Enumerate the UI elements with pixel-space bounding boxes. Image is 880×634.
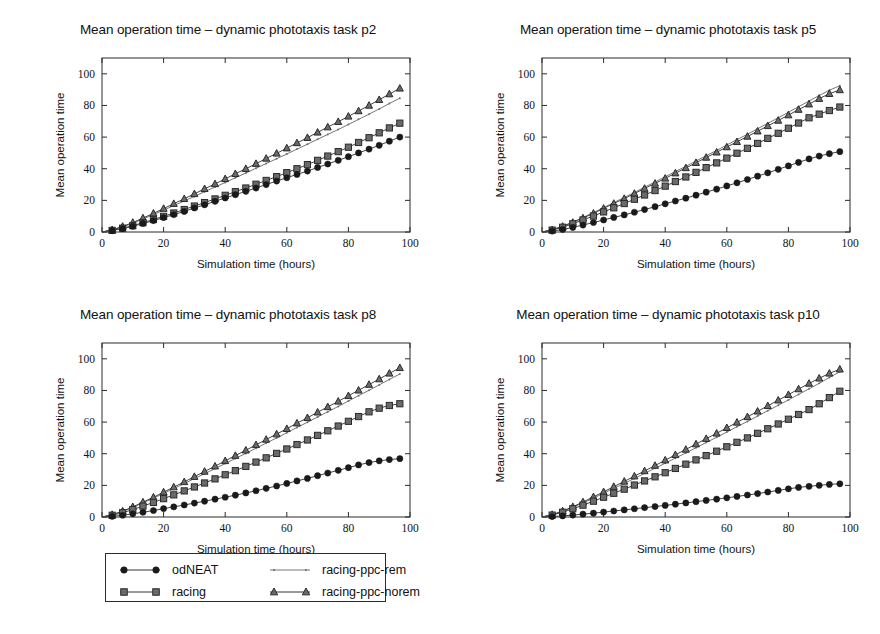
data-point-marker <box>150 499 156 505</box>
data-point-marker <box>325 428 331 434</box>
data-point-marker <box>232 192 238 198</box>
data-point-marker <box>601 217 607 223</box>
data-point-marker <box>170 200 177 207</box>
data-point-marker <box>337 405 339 407</box>
legend-label-odNEAT: odNEAT <box>172 563 264 577</box>
data-point-marker <box>315 157 321 163</box>
y-tick-label: 20 <box>524 194 536 206</box>
y-tick-label: 80 <box>524 384 536 396</box>
data-point-marker <box>785 125 791 131</box>
y-tick-label: 60 <box>524 131 536 143</box>
data-point-marker <box>570 224 576 230</box>
legend-sample-racing-ppc-norem <box>264 584 322 600</box>
data-point-marker <box>263 181 269 187</box>
data-point-marker <box>662 183 668 189</box>
data-point-marker <box>378 108 380 110</box>
data-point-marker <box>232 492 238 498</box>
data-point-marker <box>366 146 372 152</box>
data-point-marker <box>560 513 566 519</box>
data-point-marker <box>286 432 288 434</box>
data-point-marker <box>764 402 771 409</box>
x-tick-label: 20 <box>158 237 170 249</box>
data-point-marker <box>366 381 373 388</box>
data-point-marker <box>283 144 290 151</box>
y-tick-label: 80 <box>84 99 96 111</box>
data-point-marker <box>170 483 177 490</box>
data-point-marker <box>621 486 627 492</box>
axes: 020406080100020406080100 <box>78 343 419 534</box>
data-point-marker <box>294 166 300 172</box>
data-point-marker <box>358 118 360 120</box>
data-point-marker <box>284 175 290 181</box>
data-point-marker <box>368 389 370 391</box>
data-point-marker <box>693 192 699 198</box>
data-point-marker <box>335 157 341 163</box>
x-tick-label: 40 <box>659 522 671 534</box>
data-point-marker <box>703 435 710 442</box>
data-point-marker <box>621 200 627 206</box>
data-point-marker <box>160 205 167 212</box>
data-point-marker <box>397 456 403 462</box>
data-point-marker <box>335 149 341 155</box>
data-point-marker <box>785 163 791 169</box>
data-point-marker <box>765 170 771 176</box>
data-point-marker <box>273 150 280 157</box>
data-point-marker <box>386 456 392 462</box>
legend-marker-triangle <box>270 588 277 595</box>
data-point-marker <box>120 226 126 232</box>
data-point-marker <box>245 172 247 174</box>
data-point-marker <box>399 373 401 375</box>
data-point-marker <box>798 393 800 395</box>
x-tick-label: 60 <box>281 522 293 534</box>
data-point-marker <box>222 195 228 201</box>
data-point-marker <box>314 408 321 415</box>
data-point-marker <box>652 462 659 469</box>
data-point-marker <box>181 478 188 485</box>
data-point-marker <box>222 472 228 478</box>
series-line <box>102 98 400 232</box>
data-point-marker <box>345 144 351 150</box>
data-point-marker <box>201 480 207 486</box>
data-point-marker <box>397 401 403 407</box>
data-point-marker <box>785 416 791 422</box>
data-point-marker <box>315 432 321 438</box>
data-point-marker <box>837 149 843 155</box>
data-point-marker <box>294 171 300 177</box>
data-point-marker <box>746 420 748 422</box>
data-point-marker <box>327 411 329 413</box>
data-point-marker <box>714 160 720 166</box>
data-point-marker <box>795 120 801 126</box>
data-point-marker <box>714 496 720 502</box>
legend-marker-square <box>153 589 160 596</box>
data-point-marker <box>590 219 596 225</box>
data-point-marker <box>368 113 370 115</box>
data-point-marker <box>324 123 331 130</box>
y-tick-label: 60 <box>84 416 96 428</box>
x-axis-label: Simulation time (hours) <box>197 258 315 270</box>
data-point-marker <box>366 135 372 141</box>
y-axis-label: Mean operation time <box>54 378 66 483</box>
data-point-marker <box>683 500 689 506</box>
x-tick-label: 60 <box>721 522 733 534</box>
data-point-marker <box>785 391 792 398</box>
data-point-marker <box>713 430 720 437</box>
data-point-marker <box>806 406 812 412</box>
data-point-marker <box>837 481 843 487</box>
data-point-marker <box>304 134 311 141</box>
data-point-marker <box>682 446 689 453</box>
data-point-marker <box>358 395 360 397</box>
data-point-marker <box>327 133 329 135</box>
data-point-marker <box>580 511 586 517</box>
data-point-marker <box>837 388 843 394</box>
data-point-marker <box>150 218 156 224</box>
legend-label-racing-ppc-rem: racing-ppc-rem <box>322 563 426 577</box>
data-point-marker <box>765 489 771 495</box>
data-point-marker <box>744 413 751 420</box>
data-point-marker <box>294 478 300 484</box>
data-point-marker <box>775 421 781 427</box>
data-point-marker <box>335 398 342 405</box>
chart-title-p10: Mean operation time – dynamic phototaxis… <box>458 307 878 322</box>
data-point-marker <box>641 467 648 474</box>
x-tick-label: 100 <box>841 237 859 249</box>
plot-frame <box>542 58 850 232</box>
